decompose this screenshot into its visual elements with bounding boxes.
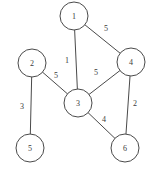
graph-edge (126, 76, 130, 134)
edges-layer (30, 25, 130, 139)
node-label: 1 (72, 12, 76, 21)
edge-weight-label: 1 (65, 56, 69, 65)
node-label: 6 (123, 144, 127, 153)
node-label: 2 (30, 59, 34, 68)
graph-edge (30, 77, 31, 134)
graph-edge (85, 25, 120, 53)
node-label: 5 (28, 144, 32, 153)
graph-edge (75, 30, 78, 89)
graph-node: 3 (64, 89, 92, 117)
graph-node: 5 (16, 134, 44, 162)
graph-node: 2 (18, 49, 46, 77)
nodes-layer: 123456 (16, 2, 145, 162)
weighted-graph-figure: 5155342 123456 (0, 0, 151, 172)
edge-weight-label: 5 (94, 68, 98, 77)
graph-node: 4 (117, 48, 145, 76)
edge-weight-label: 4 (102, 115, 106, 124)
edge-weight-label: 5 (54, 71, 58, 80)
node-label: 4 (129, 58, 133, 67)
edge-weight-label: 3 (20, 102, 24, 111)
node-label: 3 (76, 99, 80, 108)
edge-weight-label: 5 (104, 24, 108, 33)
graph-canvas: 5155342 123456 (0, 0, 151, 172)
graph-node: 6 (111, 134, 139, 162)
edge-weight-label: 2 (133, 99, 137, 108)
graph-node: 1 (60, 2, 88, 30)
